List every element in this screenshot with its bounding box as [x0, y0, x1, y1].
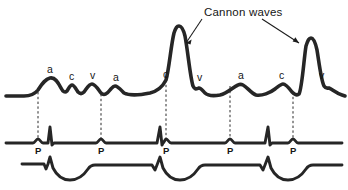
callout-leader-group: [186, 19, 299, 45]
jvp-label-v-1: v: [90, 70, 95, 81]
ecg-label-p-2: P: [98, 146, 104, 156]
ecg-label-p-5: P: [290, 146, 296, 156]
jvp-label-a-1: a: [47, 64, 53, 75]
jvp-label-c-2: c: [163, 69, 168, 80]
jvp-label-v-3: v: [319, 70, 324, 81]
ecg-waveform-path: [6, 127, 342, 145]
ventricular-waveform-path: [22, 157, 342, 180]
jvp-label-a-2: a: [113, 72, 119, 83]
jvp-label-c-3: c: [279, 70, 284, 81]
waveform-svg: [0, 0, 348, 190]
leader-line-right: [262, 19, 299, 43]
ecg-label-p-4: P: [227, 146, 233, 156]
leader-line-left: [186, 19, 202, 43]
arrowhead-right: [293, 37, 299, 43]
jvp-label-v-2: v: [197, 72, 202, 83]
cannon-waves-callout-label: Cannon waves: [204, 7, 282, 19]
ecg-label-p-3: P: [163, 146, 169, 156]
jvp-label-a-3: a: [238, 70, 244, 81]
jvp-label-c-1: c: [69, 71, 74, 82]
ecg-label-p-1: P: [35, 146, 41, 156]
jvp-waveform-path: [6, 26, 345, 96]
figure-canvas: Cannon waves a c v a c v a c v P P P P P: [0, 0, 348, 190]
